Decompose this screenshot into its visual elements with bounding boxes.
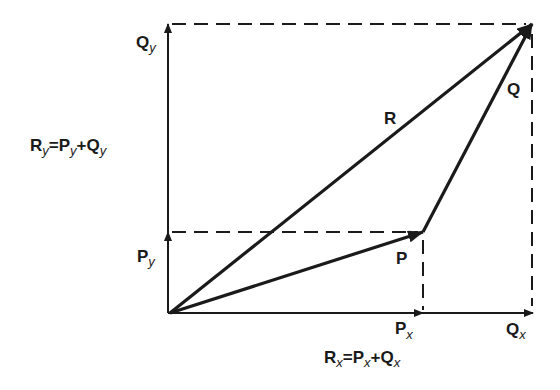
label-r: R [384,109,396,128]
label-qy: Qy [136,33,157,55]
equation-ry: Ry=Py+Qy [30,136,108,158]
label-px: Px [395,319,413,342]
vector-p [170,232,423,313]
vectors [170,24,532,313]
label-py: Py [137,247,156,269]
equation-rx: Rx=Px+Qx [324,348,401,370]
vector-addition-diagram: R Q P Qy Py Px Qx Ry=Py+Qy Rx=Px+Qx [0,0,560,390]
label-qx: Qx [506,320,526,342]
label-q: Q [507,80,520,99]
label-p: P [396,249,407,268]
vector-q [423,24,532,232]
vector-r [170,24,532,313]
